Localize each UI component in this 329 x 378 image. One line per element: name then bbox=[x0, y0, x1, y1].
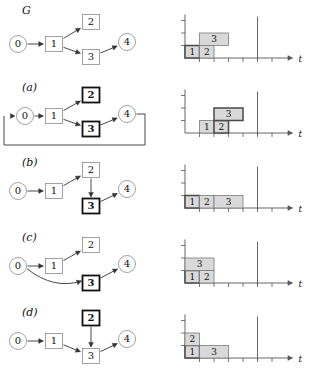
graph-node-0[interactable]: 0 bbox=[10, 183, 27, 200]
gantt-bar[interactable]: 3 bbox=[200, 346, 229, 359]
edge-3-to-4 bbox=[101, 194, 118, 202]
task-graph: 01234 bbox=[0, 0, 165, 75]
graph-panel: 01234 bbox=[0, 300, 165, 375]
graph-node-label: 3 bbox=[88, 277, 95, 288]
graph-node-0[interactable]: 0 bbox=[10, 333, 27, 350]
task-graph: 01234 bbox=[0, 225, 165, 300]
x-axis-label: t bbox=[299, 129, 303, 139]
graph-node-1[interactable]: 1 bbox=[46, 109, 63, 124]
graph-node-2[interactable]: 2 bbox=[83, 311, 100, 326]
gantt-bar-label: 1 bbox=[204, 122, 210, 132]
schedule-chart: 123t bbox=[165, 75, 329, 150]
graph-node-label: 0 bbox=[15, 38, 21, 49]
graph-node-4[interactable]: 4 bbox=[119, 34, 136, 51]
gantt-bar[interactable]: 3 bbox=[200, 33, 229, 46]
edge-1-to-3 bbox=[64, 345, 81, 352]
task-graph: 01234 bbox=[0, 300, 165, 375]
gantt-bar-label: 1 bbox=[189, 197, 195, 207]
graph-node-label: 3 bbox=[88, 200, 95, 211]
gantt-bar[interactable]: 2 bbox=[185, 333, 200, 346]
gantt-bar[interactable]: 1 bbox=[185, 271, 200, 284]
graph-panel: 01234 bbox=[0, 75, 165, 150]
gantt-bar-label: 1 bbox=[189, 272, 195, 282]
gantt-bar[interactable]: 3 bbox=[185, 258, 214, 271]
gantt-bar-label: 3 bbox=[197, 259, 203, 269]
gantt-bar[interactable]: 1 bbox=[200, 121, 215, 134]
gantt-bar-label: 2 bbox=[204, 47, 210, 57]
chart-panel: 123t bbox=[165, 0, 329, 75]
gantt-bar[interactable]: 2 bbox=[200, 271, 215, 284]
gantt-bar[interactable]: 3 bbox=[214, 196, 243, 209]
gantt-bar-label: 2 bbox=[189, 334, 195, 344]
graph-panel: 01234 bbox=[0, 0, 165, 75]
chart-panel: 123t bbox=[165, 225, 329, 300]
graph-node-0[interactable]: 0 bbox=[10, 258, 27, 275]
graph-node-label: 3 bbox=[88, 51, 94, 62]
graph-node-label: 4 bbox=[124, 258, 130, 269]
graph-node-3[interactable]: 3 bbox=[83, 199, 100, 214]
graph-node-label: 1 bbox=[51, 38, 57, 49]
gantt-bar-label: 2 bbox=[204, 272, 210, 282]
edge-3-to-4 bbox=[101, 344, 118, 352]
gantt-bar[interactable]: 3 bbox=[214, 108, 243, 121]
graph-node-4[interactable]: 4 bbox=[119, 106, 136, 123]
graph-node-1[interactable]: 1 bbox=[46, 259, 63, 274]
graph-node-label: 3 bbox=[88, 350, 94, 361]
x-axis-label: t bbox=[299, 354, 303, 364]
gantt-bar-label: 1 bbox=[189, 47, 195, 57]
chart-panel: 123t bbox=[165, 300, 329, 375]
graph-node-4[interactable]: 4 bbox=[119, 331, 136, 348]
task-graph: 01234 bbox=[0, 75, 165, 150]
gantt-bar[interactable]: 2 bbox=[214, 121, 229, 134]
graph-node-label: 4 bbox=[124, 333, 130, 344]
graph-node-1[interactable]: 1 bbox=[46, 334, 63, 349]
graph-node-1[interactable]: 1 bbox=[46, 184, 63, 199]
figure-row-c: (c)01234123t bbox=[0, 225, 329, 300]
graph-node-label: 4 bbox=[124, 108, 130, 119]
graph-node-3[interactable]: 3 bbox=[83, 276, 100, 291]
gantt-bar-label: 3 bbox=[226, 197, 232, 207]
gantt-bar[interactable]: 2 bbox=[200, 46, 215, 59]
graph-node-4[interactable]: 4 bbox=[119, 256, 136, 273]
chart-panel: 123t bbox=[165, 75, 329, 150]
edge-1-to-2 bbox=[64, 251, 81, 261]
edge-1-to-2 bbox=[64, 176, 81, 186]
graph-node-label: 0 bbox=[15, 335, 21, 346]
gantt-bar[interactable]: 2 bbox=[200, 196, 215, 209]
gantt-bar[interactable]: 1 bbox=[185, 46, 200, 59]
graph-node-1[interactable]: 1 bbox=[46, 37, 63, 52]
gantt-bar[interactable]: 1 bbox=[185, 196, 200, 209]
graph-node-label: 2 bbox=[88, 164, 94, 175]
graph-node-label: 2 bbox=[88, 239, 94, 250]
graph-node-label: 4 bbox=[124, 36, 130, 47]
schedule-chart: 123t bbox=[165, 0, 329, 75]
graph-node-4[interactable]: 4 bbox=[119, 181, 136, 198]
graph-node-label: 3 bbox=[88, 123, 95, 134]
graph-node-label: 0 bbox=[15, 185, 21, 196]
graph-node-label: 0 bbox=[15, 260, 21, 271]
graph-node-3[interactable]: 3 bbox=[83, 349, 100, 364]
graph-node-label: 1 bbox=[51, 185, 57, 196]
graph-node-2[interactable]: 2 bbox=[83, 15, 100, 30]
graph-node-0[interactable]: 0 bbox=[17, 108, 34, 125]
figure-row-b: (b)01234123t bbox=[0, 150, 329, 225]
graph-node-3[interactable]: 3 bbox=[83, 122, 100, 137]
gantt-bar-label: 3 bbox=[211, 347, 217, 357]
graph-node-0[interactable]: 0 bbox=[10, 36, 27, 53]
schedule-chart: 123t bbox=[165, 150, 329, 225]
graph-node-2[interactable]: 2 bbox=[83, 88, 100, 103]
graph-node-2[interactable]: 2 bbox=[83, 238, 100, 253]
graph-node-label: 0 bbox=[22, 110, 28, 121]
graph-panel: 01234 bbox=[0, 150, 165, 225]
graph-node-3[interactable]: 3 bbox=[83, 50, 100, 65]
gantt-bar-label: 2 bbox=[218, 122, 224, 132]
schedule-chart: 123t bbox=[165, 300, 329, 375]
graph-node-label: 2 bbox=[88, 312, 95, 323]
edge-3-to-4 bbox=[101, 46, 118, 53]
gantt-bar[interactable]: 1 bbox=[185, 346, 200, 359]
graph-node-2[interactable]: 2 bbox=[83, 163, 100, 178]
gantt-bar-label: 3 bbox=[226, 109, 232, 119]
edge-3-to-4 bbox=[101, 269, 118, 278]
gantt-bar-label: 1 bbox=[189, 347, 195, 357]
gantt-bar-label: 3 bbox=[211, 34, 217, 44]
